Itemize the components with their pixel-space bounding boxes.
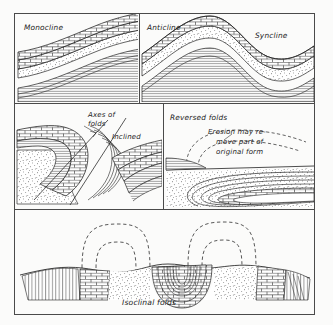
panel-title-monocline: Monocline xyxy=(24,23,63,32)
folds-figure: Monocline Anticline Syncline xyxy=(0,0,333,325)
annotation-erosion-line3: original form xyxy=(216,148,263,156)
fold-label-syncline: Syncline xyxy=(255,31,288,40)
annotation-axes-line1: Axes of xyxy=(87,111,116,119)
folds-illustration: Monocline Anticline Syncline xyxy=(0,0,333,325)
caption-isoclinal-folds: Isoclinal folds xyxy=(122,298,176,307)
annotation-inclined: Inclined xyxy=(112,133,141,141)
panel-title-reversed-folds: Reversed folds xyxy=(170,113,227,122)
annotation-erosion-line2: move part of xyxy=(216,138,265,146)
fold-label-anticline: Anticline xyxy=(146,23,181,32)
annotation-erosion-line1: Erosion may re- xyxy=(208,128,266,136)
annotation-axes-line2: folds xyxy=(88,120,106,128)
